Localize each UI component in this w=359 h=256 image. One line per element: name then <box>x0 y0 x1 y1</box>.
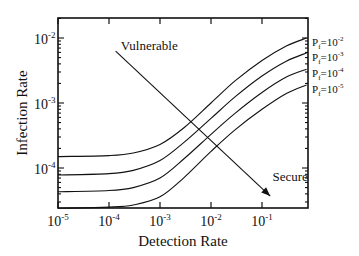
chart: 10-510-410-310-210-110-210-310-4 Pf=10-2… <box>0 0 359 256</box>
x-tick-label: 10-4 <box>98 212 120 229</box>
series-label-3: Pf=10-4 <box>312 66 344 82</box>
series-label-2: Pf=10-3 <box>312 50 344 66</box>
y-tick-label: 10-3 <box>34 95 56 112</box>
annotation-secure: Secure <box>272 169 308 184</box>
y-tick-label: 10-2 <box>34 30 56 47</box>
series-label-1: Pf=10-2 <box>312 35 344 51</box>
trend-arrow <box>116 51 271 196</box>
annotation-vulnerable: Vulnerable <box>121 38 178 53</box>
x-tick-label: 10-1 <box>251 212 273 229</box>
x-tick-label: 10-3 <box>149 212 171 229</box>
y-tick-label: 10-4 <box>34 160 56 177</box>
plot-frame <box>58 18 308 208</box>
x-tick-label: 10-5 <box>47 212 69 229</box>
data-curves <box>58 38 307 208</box>
plot-border <box>58 18 308 208</box>
series-labels: Pf=10-2Pf=10-3Pf=10-4Pf=10-5 <box>312 35 344 98</box>
series-line-3 <box>58 69 307 192</box>
y-axis-label: Infection Rate <box>14 70 30 156</box>
series-line-4 <box>58 85 307 208</box>
x-axis-label: Detection Rate <box>138 233 228 249</box>
x-tick-label: 10-2 <box>200 212 222 229</box>
series-label-4: Pf=10-5 <box>312 82 344 98</box>
series-line-1 <box>58 38 307 157</box>
axis-ticks <box>58 18 308 208</box>
